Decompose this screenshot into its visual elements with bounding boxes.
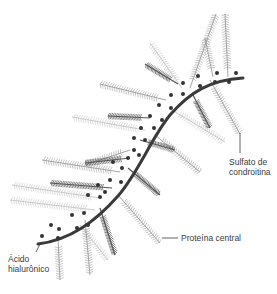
link-protein-dot	[56, 236, 60, 240]
link-protein-dot	[57, 227, 61, 231]
link-protein-dot	[137, 153, 141, 157]
hyaluronic-label-line1: Ácido	[8, 254, 49, 264]
link-protein-dot	[227, 80, 231, 84]
link-protein-dots	[40, 71, 238, 240]
link-protein-dot	[111, 160, 115, 164]
core-protein-chain	[189, 14, 218, 88]
link-protein-dot	[132, 136, 136, 140]
core-protein-chain	[100, 208, 118, 255]
core-protein-chain	[118, 195, 161, 244]
chondroitin-label-line1: Sulfato de	[229, 157, 271, 167]
chondroitin-label-line2: condroitina	[229, 167, 271, 177]
link-protein-dot	[40, 234, 44, 238]
chondroitin-sulfate-bristles	[211, 86, 242, 134]
chondroitin-sulfate-bristles	[100, 215, 118, 254]
link-protein-dot	[143, 138, 147, 142]
core-protein-label: Proteína central	[181, 233, 241, 243]
link-protein-dot	[103, 190, 107, 194]
link-protein-dot	[49, 223, 53, 227]
chondroitin-sulfate-label: Sulfato de condroitina	[229, 157, 271, 177]
link-protein-dot	[234, 71, 238, 75]
core-protein-chain	[145, 63, 178, 84]
core-protein-chain	[155, 135, 201, 174]
core-protein-chain	[80, 225, 109, 260]
link-protein-dot	[215, 71, 219, 75]
link-protein-dot	[119, 180, 123, 184]
link-protein-dot	[126, 156, 130, 160]
link-protein-dot	[82, 211, 86, 215]
link-protein-dot	[213, 80, 217, 84]
link-protein-dot	[198, 84, 202, 88]
link-protein-dot	[98, 195, 102, 199]
hyaluronic-label-line2: hialurônico	[8, 264, 49, 274]
link-protein-dot	[139, 126, 143, 130]
link-protein-dot	[86, 193, 90, 197]
core-protein-label-text: Proteína central	[181, 233, 241, 243]
link-protein-dot	[169, 93, 173, 97]
proteoglycan-aggregate-diagram	[0, 0, 277, 294]
link-protein-dot	[160, 118, 164, 122]
core-protein-chain	[172, 110, 225, 144]
link-protein-dot	[196, 74, 200, 78]
core-protein-chain	[202, 38, 215, 77]
link-protein-dot	[181, 92, 185, 96]
link-protein-dot	[108, 178, 112, 182]
core-protein-chain	[55, 238, 64, 280]
link-protein-dot	[152, 126, 156, 130]
core-protein-chain	[128, 168, 160, 196]
link-protein-dot	[70, 213, 74, 217]
core-protein-chain	[210, 80, 242, 134]
chondroitin-sulfate-bristles	[193, 99, 212, 128]
link-protein-dot	[120, 166, 124, 170]
link-protein-dot	[132, 148, 136, 152]
core-protein-chain	[10, 197, 95, 213]
core-protein-chain	[149, 43, 182, 88]
link-protein-dot	[75, 226, 79, 230]
link-protein-dot	[148, 114, 152, 118]
link-protein-dot	[181, 81, 185, 85]
link-protein-dot	[96, 183, 100, 187]
link-protein-dot	[157, 103, 161, 107]
core-protein-chain	[50, 180, 112, 191]
link-protein-dot	[86, 223, 90, 227]
core-protein-chain	[108, 113, 150, 121]
link-protein-dot	[169, 106, 173, 110]
core-protein-chain	[221, 14, 231, 77]
core-protein-chain	[100, 81, 166, 102]
chondroitin-sulfate-bristles	[11, 197, 87, 213]
hyaluronic-acid-label: Ácido hialurônico	[8, 254, 49, 274]
